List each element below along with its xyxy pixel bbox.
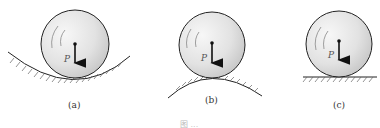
force-label: P [63,54,71,64]
flat-surface [303,77,377,82]
figure-canvas: P (a) P (b) [0,0,380,128]
panel-a: P (a) [8,10,130,110]
force-label: P [327,50,335,60]
panel-c: P (c) [303,11,377,110]
panel-label: (c) [333,100,345,110]
figure-caption: 图 ... [180,120,198,128]
panel-label: (b) [205,95,218,105]
panel-label: (a) [68,100,80,110]
panel-b: P (b) [168,12,262,105]
force-label: P [200,53,208,63]
